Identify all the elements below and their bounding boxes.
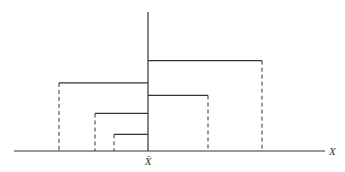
brackets-group bbox=[59, 61, 262, 151]
diagram-lines bbox=[14, 12, 325, 151]
diagram-canvas: X̄ X bbox=[0, 0, 345, 172]
mean-label: X̄ bbox=[144, 155, 153, 167]
x-axis-label: X bbox=[328, 145, 337, 157]
